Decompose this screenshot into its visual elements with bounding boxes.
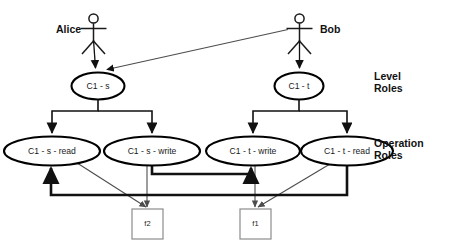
label-c1twrite: C1 - t - write <box>230 146 277 156</box>
label-f1: f1 <box>252 219 258 228</box>
actor-label-alice: Alice <box>56 23 81 35</box>
side-label-operation-roles-line2: Roles <box>374 149 403 161</box>
bob-head-icon <box>295 14 304 23</box>
node-file-f1[interactable]: f1 <box>240 209 271 239</box>
side-label-operation-roles: Operation Roles <box>374 137 424 161</box>
edge-c1tread-to-f1 <box>258 161 335 207</box>
node-level-role-c1t[interactable]: C1 - t <box>275 73 324 100</box>
label-c1swrite: C1 - s - write <box>128 146 177 156</box>
label-c1sread: C1 - s - read <box>28 146 76 156</box>
edge-alice-to-c1s <box>94 40 96 68</box>
alice-leg-left <box>82 41 94 54</box>
edge-c1t-to-c1tread <box>299 111 347 133</box>
node-file-f2[interactable]: f2 <box>132 209 163 239</box>
edge-c1s-to-c1swrite <box>98 111 152 133</box>
label-f2: f2 <box>144 219 150 228</box>
edge-c1t-to-c1twrite <box>253 100 299 134</box>
alice-head-icon <box>89 14 98 23</box>
node-level-role-c1s[interactable]: C1 - s <box>72 73 125 100</box>
edge-c1swrite-to-c1twrite <box>152 166 251 175</box>
edge-c1s-to-c1sread <box>52 100 98 134</box>
side-label-level-roles-line1: Level <box>374 70 401 82</box>
node-operation-role-c1twrite[interactable]: C1 - t - write <box>206 137 300 166</box>
alice-leg-right <box>94 41 106 54</box>
edge-bob-to-c1s <box>107 30 288 70</box>
side-label-operation-roles-line1: Operation <box>374 137 424 149</box>
label-c1s: C1 - s <box>87 81 110 91</box>
edge-c1sread-to-f2 <box>74 161 146 207</box>
node-operation-role-c1sread[interactable]: C1 - s - read <box>4 137 100 166</box>
diagram-svg: Alice Bob C1 - s C1 - t <box>0 0 451 250</box>
bob-leg-left <box>288 41 300 54</box>
side-label-level-roles-line2: Roles <box>374 82 403 94</box>
bob-leg-right <box>300 41 312 54</box>
diagram-canvas: Alice Bob C1 - s C1 - t <box>0 0 451 250</box>
side-label-level-roles: Level Roles <box>374 70 403 94</box>
label-c1tread: C1 - t - read <box>324 146 370 156</box>
node-operation-role-c1swrite[interactable]: C1 - s - write <box>104 137 200 166</box>
actor-label-bob: Bob <box>320 23 340 35</box>
label-c1t: C1 - t <box>288 81 310 91</box>
